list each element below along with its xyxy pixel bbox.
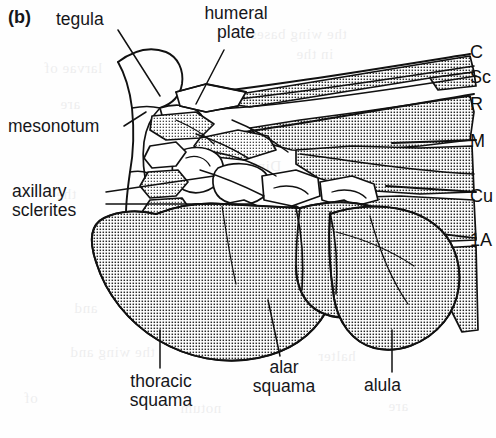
radial-cell [250, 96, 474, 152]
label-axillary-line2: sclerites [12, 201, 76, 221]
vein-label-c: C [470, 43, 483, 61]
label-tegula: tegula [56, 10, 104, 30]
leader-tegula [118, 30, 160, 96]
median-plate-posterior [262, 170, 320, 206]
label-humeral-plate-line1: humeral [188, 4, 284, 24]
figure-panel-b: the wing basesin thelarvae ofareof theDi… [0, 0, 496, 438]
label-alar-squama-line2: squama [240, 377, 328, 397]
vein-label-sc: Sc [470, 68, 491, 86]
label-thoracic-squama-line1: thoracic [110, 372, 212, 392]
label-humeral-plate-line2: plate [188, 23, 284, 43]
vein-label-r: R [470, 95, 483, 113]
label-axillary-line1: axillary [12, 182, 66, 202]
label-alar-squama-line1: alar [240, 358, 328, 378]
label-thoracic-squama-line2: squama [110, 391, 212, 411]
leader-mesonotum [124, 112, 146, 126]
label-alula: alula [364, 376, 401, 396]
mesonotum-dome [118, 49, 182, 108]
vein-label-cu: Cu [470, 187, 493, 205]
mesonotum-suture [132, 107, 160, 109]
panel-label: (b) [8, 8, 31, 28]
vein-label-m: M [470, 132, 485, 150]
median-plate-anterior [213, 164, 270, 205]
vein-label-1a: 1A [470, 231, 492, 249]
label-mesonotum: mesonotum [8, 117, 99, 137]
mesonotum-outline-left [118, 62, 133, 214]
